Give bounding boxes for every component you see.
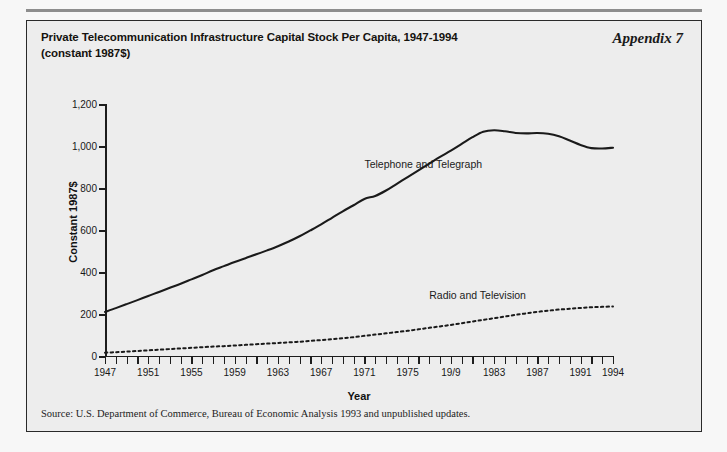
- x-tick-1969: [343, 356, 344, 364]
- x-tick-label-1967: 1967: [310, 367, 332, 378]
- x-tick-label-1947: 1947: [94, 367, 116, 378]
- series-line-radio-and-television: [105, 306, 613, 352]
- x-tick-1979: [451, 356, 452, 364]
- x-tick-1975: [408, 356, 409, 364]
- x-tick-1954: [181, 356, 182, 364]
- y-tick-label-0: 0: [53, 351, 97, 362]
- x-tick-1973: [386, 356, 387, 364]
- x-tick-1950: [137, 356, 138, 364]
- x-tick-label-1979: 19/9: [441, 367, 460, 378]
- x-tick-1988: [548, 356, 549, 364]
- x-tick-label-1971: 1971: [353, 367, 375, 378]
- title-line-1: Private Telecommunication Infrastructure…: [41, 31, 458, 43]
- x-tick-1957: [213, 356, 214, 364]
- x-tick-1990: [570, 356, 571, 364]
- x-tick-1980: [462, 356, 463, 364]
- x-tick-1974: [397, 356, 398, 364]
- x-axis-title: Year: [105, 390, 613, 402]
- x-tick-1952: [159, 356, 160, 364]
- x-tick-1976: [418, 356, 419, 364]
- series-line-telephone-and-telegraph: [105, 130, 613, 312]
- x-tick-1951: [148, 356, 149, 364]
- x-tick-1949: [127, 356, 128, 364]
- x-tick-1964: [289, 356, 290, 364]
- x-tick-label-1951: 1951: [137, 367, 159, 378]
- y-tick-label-200: 200: [53, 309, 97, 320]
- series-label-radio-and-television: Radio and Television: [429, 289, 526, 301]
- chart-series-svg: [105, 104, 613, 357]
- x-tick-1961: [256, 356, 257, 364]
- x-tick-1972: [375, 356, 376, 364]
- chart-plot-area: 02004006008001,0001,200 1947195119551959…: [105, 104, 613, 356]
- x-tick-1962: [267, 356, 268, 364]
- page-title: Private Telecommunication Infrastructure…: [41, 29, 481, 61]
- x-tick-1971: [364, 356, 365, 364]
- x-tick-1960: [246, 356, 247, 364]
- x-tick-1982: [483, 356, 484, 364]
- x-tick-1981: [472, 356, 473, 364]
- x-tick-1983: [494, 356, 495, 364]
- source-note: Source: U.S. Department of Commerce, Bur…: [41, 408, 470, 419]
- x-tick-1970: [354, 356, 355, 364]
- figure-panel: Private Telecommunication Infrastructure…: [26, 20, 702, 432]
- x-tick-1986: [527, 356, 528, 364]
- x-tick-label-1987: 1987: [526, 367, 548, 378]
- x-tick-1985: [516, 356, 517, 364]
- y-axis-title: Constant 1987$: [67, 142, 79, 302]
- x-tick-1984: [505, 356, 506, 364]
- x-tick-1963: [278, 356, 279, 364]
- x-tick-1956: [202, 356, 203, 364]
- x-tick-label-1963: 1963: [267, 367, 289, 378]
- x-tick-label-1991: 1991: [569, 367, 591, 378]
- x-tick-1953: [170, 356, 171, 364]
- x-tick-label-1994: 1994: [602, 367, 624, 378]
- x-tick-1994: [613, 356, 614, 364]
- x-tick-1966: [310, 356, 311, 364]
- x-tick-1965: [300, 356, 301, 364]
- x-tick-1978: [440, 356, 441, 364]
- x-tick-1989: [559, 356, 560, 364]
- page-background: Private Telecommunication Infrastructure…: [0, 0, 727, 452]
- x-tick-1948: [116, 356, 117, 364]
- x-tick-label-1983: 1983: [483, 367, 505, 378]
- x-tick-1958: [224, 356, 225, 364]
- x-tick-1955: [191, 356, 192, 364]
- y-tick-label-1200: 1,200: [53, 99, 97, 110]
- x-tick-1968: [332, 356, 333, 364]
- x-tick-1993: [602, 356, 603, 364]
- x-tick-label-1955: 1955: [180, 367, 202, 378]
- x-tick-label-1975: 1975: [397, 367, 419, 378]
- x-tick-1967: [321, 356, 322, 364]
- x-tick-1992: [591, 356, 592, 364]
- x-tick-1991: [581, 356, 582, 364]
- x-tick-1959: [235, 356, 236, 364]
- x-tick-1987: [537, 356, 538, 364]
- x-tick-1977: [429, 356, 430, 364]
- top-divider-rule: [26, 9, 702, 12]
- title-line-2: (constant 1987$): [41, 45, 481, 61]
- appendix-label: Appendix 7: [613, 30, 683, 47]
- series-label-telephone-and-telegraph: Telephone and Telegraph: [364, 158, 482, 170]
- x-tick-1947: [105, 356, 106, 364]
- x-tick-label-1959: 1959: [224, 367, 246, 378]
